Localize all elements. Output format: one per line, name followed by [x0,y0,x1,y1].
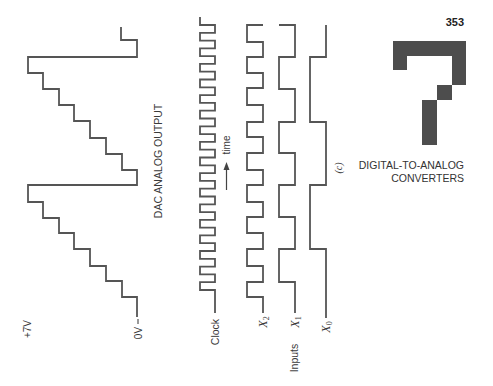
time-axis: time [221,135,232,190]
clock-label: Clock [209,318,221,345]
dac-output-waveform-group: +7V 0V DAC ANALOG OUTPUT [22,27,165,339]
time-label: time [221,135,232,154]
clock-waveform [200,17,215,313]
running-head-line-2: CONVERTERS [391,172,464,184]
input-x0-subscript: 0 [325,321,334,325]
input-x0-waveform [310,25,326,318]
bottom-voltage-label: 0V [133,327,144,340]
input-x1-waveform [279,25,295,313]
dac-output-label: DAC ANALOG OUTPUT [152,103,164,218]
input-x2-subscript: 2 [262,316,271,320]
input-x0-group: X0 [310,25,334,334]
chapter-number-glyph [393,41,466,145]
input-x2-label: X2 [256,316,271,328]
input-x1-label: X1 [288,316,303,328]
input-x2-waveform [247,25,263,313]
input-x1-group: X1 [279,25,303,329]
dac-output-waveform [28,27,137,317]
timing-diagram: +7V 0V DAC ANALOG OUTPUT Clock time X2 X… [0,0,493,386]
time-arrow-head-icon [224,162,230,170]
inputs-group-label: Inputs [288,344,300,373]
page-number: 353 [446,16,464,28]
clock-waveform-group: Clock [200,17,221,345]
input-x2-group: X2 [247,25,271,329]
figure-part-label: (c) [333,162,345,174]
running-head-line-1: DIGITAL-TO-ANALOG [359,159,464,171]
input-x1-subscript: 1 [294,316,303,320]
top-voltage-label: +7V [22,320,33,338]
input-x0-label: X0 [319,321,334,333]
